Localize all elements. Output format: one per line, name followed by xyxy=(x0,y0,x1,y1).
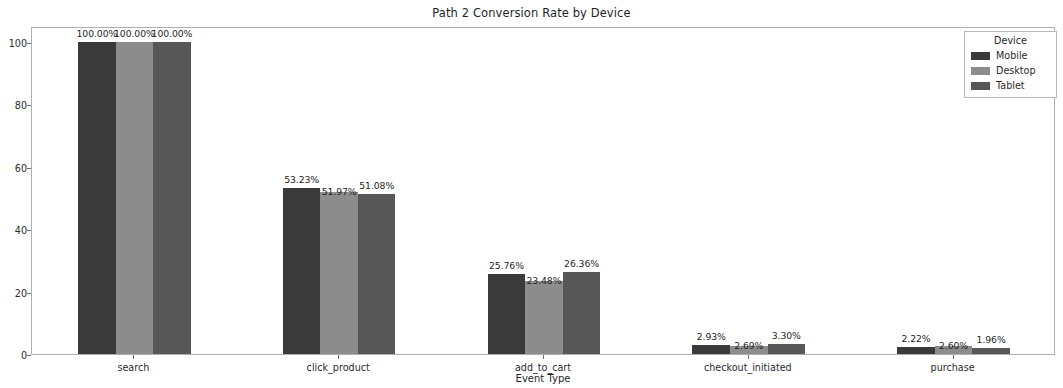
bar[interactable] xyxy=(153,42,191,354)
legend-label: Tablet xyxy=(996,80,1025,91)
legend: Device MobileDesktopTablet xyxy=(964,31,1057,98)
x-axis-tick-label: search xyxy=(117,362,149,373)
y-axis-tick-mark xyxy=(27,293,31,294)
x-axis-title: Event Type xyxy=(31,373,1055,384)
chart-title: Path 2 Conversion Rate by Device xyxy=(0,6,1063,20)
x-axis-ticks: searchclick_productadd_to_cartcheckout_i… xyxy=(31,355,1055,361)
bar-group: 100.00%100.00%100.00% xyxy=(78,28,191,354)
bar[interactable] xyxy=(525,281,563,354)
bar-value-label: 1.96% xyxy=(958,334,1024,345)
y-axis-tick-mark xyxy=(27,105,31,106)
bar[interactable] xyxy=(972,348,1010,354)
bar-group: 25.76%23.48%26.36% xyxy=(488,28,601,354)
y-axis-tick-marks xyxy=(0,27,35,355)
bar[interactable] xyxy=(768,344,806,354)
legend-swatch-icon xyxy=(971,67,990,75)
bar-value-label: 25.76% xyxy=(473,260,539,271)
x-axis-tick-label: checkout_initiated xyxy=(704,362,792,373)
x-axis-tick-label: purchase xyxy=(931,362,975,373)
x-axis-tick-label: add_to_cart xyxy=(515,362,571,373)
legend-entry[interactable]: Desktop xyxy=(971,63,1050,78)
bar[interactable] xyxy=(320,192,358,354)
bar[interactable] xyxy=(78,42,116,354)
bar-value-label: 51.08% xyxy=(344,180,410,191)
legend-entry[interactable]: Mobile xyxy=(971,48,1050,63)
x-axis-tick-label: click_product xyxy=(307,362,370,373)
legend-label: Mobile xyxy=(996,50,1027,61)
legend-title: Device xyxy=(971,35,1050,46)
chart-figure: Path 2 Conversion Rate by Device 0204060… xyxy=(0,0,1063,388)
x-axis-tick-mark xyxy=(133,355,134,359)
legend-entries: MobileDesktopTablet xyxy=(971,48,1050,93)
y-axis-tick-mark xyxy=(27,168,31,169)
y-axis-tick-mark xyxy=(27,43,31,44)
y-axis-tick-mark xyxy=(27,355,31,356)
legend-swatch-icon xyxy=(971,52,990,60)
bars-layer: 100.00%100.00%100.00%53.23%51.97%51.08%2… xyxy=(32,28,1054,354)
x-axis-tick-mark xyxy=(543,355,544,359)
bar-value-label: 53.23% xyxy=(269,174,335,185)
legend-entry[interactable]: Tablet xyxy=(971,78,1050,93)
x-axis-tick-mark xyxy=(338,355,339,359)
bar[interactable] xyxy=(563,272,601,354)
plot-area: 100.00%100.00%100.00%53.23%51.97%51.08%2… xyxy=(31,27,1055,355)
bar-group: 2.93%2.69%3.30% xyxy=(692,28,805,354)
legend-label: Desktop xyxy=(996,65,1036,76)
bar-value-label: 26.36% xyxy=(548,258,614,269)
bar[interactable] xyxy=(358,194,396,354)
legend-swatch-icon xyxy=(971,82,990,90)
bar-value-label: 100.00% xyxy=(139,28,205,39)
bar[interactable] xyxy=(116,42,154,354)
bar-value-label: 3.30% xyxy=(753,330,819,341)
bar[interactable] xyxy=(283,188,321,354)
bar-group: 53.23%51.97%51.08% xyxy=(283,28,396,354)
x-axis-tick-mark xyxy=(953,355,954,359)
x-axis-tick-mark xyxy=(748,355,749,359)
y-axis-tick-mark xyxy=(27,230,31,231)
